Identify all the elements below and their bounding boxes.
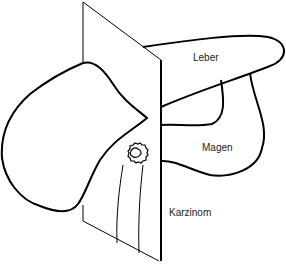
carcinoma-label: Karzinom [169, 208, 211, 218]
carcinoma-stalk-right [139, 165, 143, 253]
liver-outline [143, 36, 284, 107]
anatomy-diagram [0, 0, 286, 264]
carcinoma [117, 143, 148, 253]
carcinoma-stalk-left [117, 165, 123, 243]
stomach-front-lobe [2, 62, 147, 211]
stomach-label: Magen [202, 143, 233, 153]
carcinoma-outer [128, 143, 148, 163]
liver-label: Leber [193, 53, 219, 63]
